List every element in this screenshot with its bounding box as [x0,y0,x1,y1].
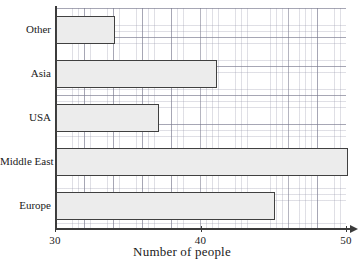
bar-asia [56,60,217,88]
category-label-asia: Asia [0,67,51,79]
bar-middle-east [56,148,348,176]
category-label-europe: Europe [0,199,51,211]
bar-other [56,16,115,44]
x-tick-mark-50 [346,226,347,232]
bar-chart: OtherAsiaUSAMiddle EastEurope 304050 Num… [0,0,364,261]
category-label-other: Other [0,23,51,35]
x-tick-mark-30 [55,226,56,232]
bar-usa [56,104,159,132]
bar-europe [56,192,275,220]
x-tick-mark-40 [201,226,202,232]
x-axis-title: Number of people [0,244,364,260]
x-axis-arrow-icon [350,225,358,233]
category-label-middle-east: Middle East [0,155,51,167]
x-axis-line [55,228,351,230]
category-label-usa: USA [0,111,51,123]
